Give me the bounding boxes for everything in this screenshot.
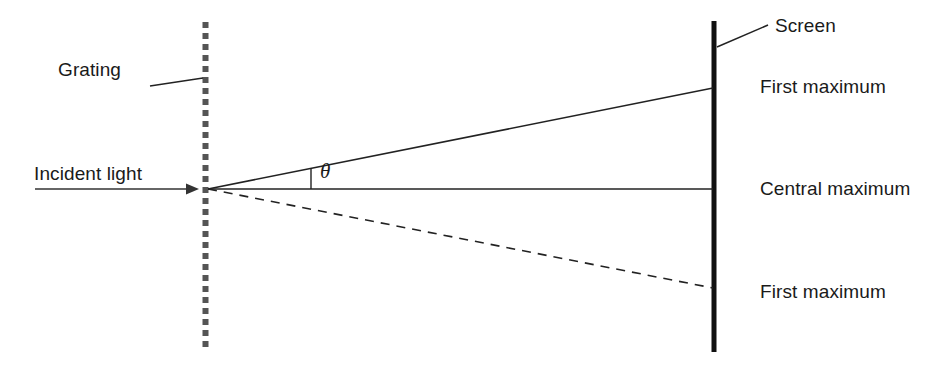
first-maximum-upper-label: First maximum <box>760 76 886 97</box>
first-order-ray-lower <box>208 189 713 288</box>
incident-light-arrowhead <box>186 184 199 195</box>
incident-light-label: Incident light <box>34 163 142 184</box>
central-maximum-label: Central maximum <box>760 178 910 199</box>
grating-leader-line <box>150 78 203 86</box>
diffraction-grating-diagram: Grating Incident light θ Screen First ma… <box>0 0 930 381</box>
screen-leader-line <box>717 25 768 47</box>
first-maximum-lower-label: First maximum <box>760 281 886 302</box>
first-order-ray-upper <box>208 88 713 189</box>
screen-label: Screen <box>775 15 836 36</box>
grating-label: Grating <box>58 59 121 80</box>
theta-angle-label: θ <box>320 161 330 182</box>
